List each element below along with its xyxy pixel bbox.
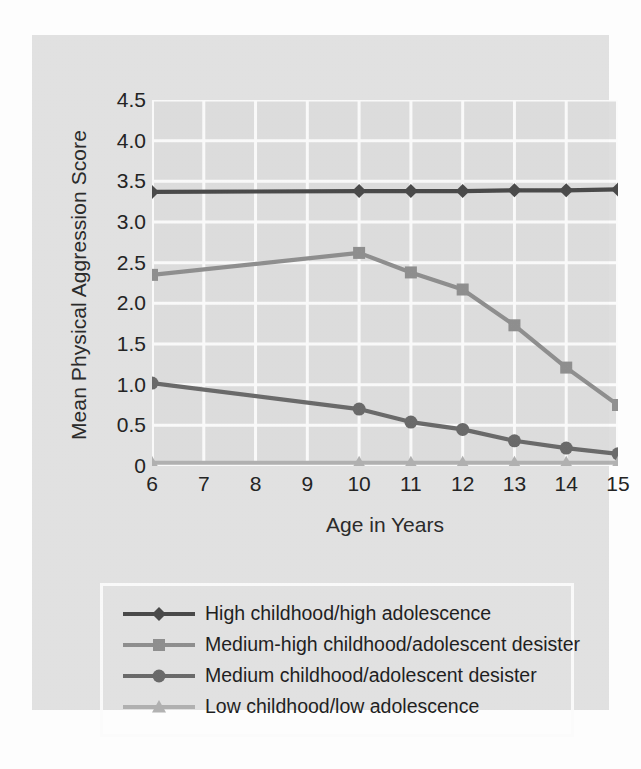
legend-marker-square-icon: [123, 634, 195, 656]
data-point-marker-circle: [153, 669, 166, 682]
y-tick-label: 4.0: [94, 130, 146, 151]
data-point-marker-circle: [404, 416, 417, 429]
x-axis-title: Age in Years: [152, 513, 618, 537]
data-point-marker-square: [153, 639, 165, 651]
data-point-marker-circle: [560, 442, 573, 455]
legend-item[interactable]: Medium childhood/adolescent desister: [103, 660, 571, 691]
data-point-marker-circle: [508, 434, 521, 447]
data-point-marker-circle: [353, 403, 366, 416]
y-tick-label: 2.0: [94, 292, 146, 313]
y-axis-tick-labels: 4.54.03.53.02.52.01.51.00.50: [84, 35, 146, 535]
x-tick-label: 14: [555, 473, 578, 494]
legend-label: Medium-high childhood/adolescent desiste…: [205, 635, 580, 655]
figure-panel: Mean Physical Aggression Score 4.54.03.5…: [32, 35, 609, 710]
x-tick-label: 13: [503, 473, 526, 494]
data-point-marker-circle: [456, 423, 469, 436]
legend-label: Low childhood/low adolescence: [205, 697, 479, 717]
legend-marker-diamond-icon: [123, 603, 195, 625]
x-tick-label: 12: [451, 473, 474, 494]
y-tick-label: 0.5: [94, 414, 146, 435]
y-tick-label: 2.5: [94, 252, 146, 273]
data-point-marker-diamond: [152, 607, 166, 621]
legend-label: Medium childhood/adolescent desister: [205, 666, 537, 686]
page-background: Mean Physical Aggression Score 4.54.03.5…: [0, 0, 641, 769]
legend-marker-triangle-icon: [123, 696, 195, 718]
x-tick-label: 15: [606, 473, 629, 494]
legend-marker-circle-icon: [123, 665, 195, 687]
x-tick-label: 9: [301, 473, 313, 494]
x-tick-label: 11: [400, 473, 422, 494]
y-tick-label: 3.0: [94, 211, 146, 232]
legend-label: High childhood/high adolescence: [205, 604, 491, 624]
plot-background: [152, 100, 618, 466]
data-point-marker-square: [152, 269, 158, 281]
legend-item[interactable]: Medium-high childhood/adolescent desiste…: [103, 629, 571, 660]
series-line: [152, 189, 618, 191]
data-point-marker-square: [508, 319, 520, 331]
x-tick-label: 7: [198, 473, 210, 494]
legend-item[interactable]: Low childhood/low adolescence: [103, 691, 571, 722]
data-point-marker-square: [560, 362, 572, 374]
y-tick-label: 3.5: [94, 170, 146, 191]
data-point-marker-square: [353, 247, 365, 259]
x-tick-label: 6: [146, 473, 158, 494]
y-tick-label: 0: [94, 455, 146, 476]
chart-legend: High childhood/high adolescenceMedium-hi…: [100, 583, 574, 737]
x-axis-tick-labels: 6789101112131415: [152, 473, 618, 503]
data-point-marker-square: [457, 284, 469, 296]
plot-area: [152, 100, 618, 466]
data-point-marker-square: [612, 399, 618, 411]
y-tick-label: 1.5: [94, 333, 146, 354]
y-tick-label: 1.0: [94, 374, 146, 395]
data-point-marker-square: [405, 266, 417, 278]
line-chart-svg: [152, 100, 618, 466]
x-tick-label: 10: [347, 473, 370, 494]
x-tick-label: 8: [250, 473, 262, 494]
y-tick-label: 4.5: [94, 89, 146, 110]
legend-item[interactable]: High childhood/high adolescence: [103, 598, 571, 629]
